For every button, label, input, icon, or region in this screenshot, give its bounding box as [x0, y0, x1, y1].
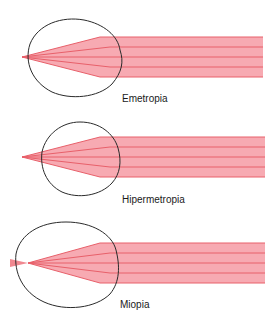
diverging-beam	[10, 259, 28, 267]
diagram-miopia	[10, 222, 265, 308]
label-emetropia: Emetropia	[122, 93, 168, 104]
refraction-diagrams	[0, 0, 278, 321]
diagram-hipermetropia	[22, 122, 265, 196]
label-hipermetropia: Hipermetropia	[122, 194, 185, 205]
diagram-emetropia	[22, 19, 263, 97]
label-miopia: Miopia	[120, 299, 149, 310]
